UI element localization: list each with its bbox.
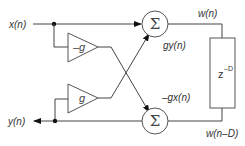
cross-wire-neg-g-to-bottom-sum [98,47,149,112]
delay-input-label: w(n) [198,8,217,19]
output-label: y(n) [7,116,25,127]
delay-output-label: w(n–D) [206,128,238,139]
output-junction-dot [53,119,57,123]
output-branch-wire [55,99,68,121]
top-feed-label: gy(n) [163,40,186,51]
delay-output-wire [168,108,222,121]
gain-top-label: –g [72,41,86,53]
input-branch-wire [54,24,68,47]
input-label: x(n) [8,19,26,30]
bottom-feed-label: –gx(n) [161,92,190,103]
delay-base-label: z [218,68,224,80]
cross-wire-g-to-top-sum [98,34,149,98]
gain-bottom-label: g [79,92,86,104]
sum-bottom-symbol: Σ [150,112,161,130]
allpass-filter-diagram: x(n) –g g Σ gy(n) w(n) z –D w(n–D) –gx(n… [0,0,245,146]
delay-exponent-label: –D [224,65,233,72]
sum-top-symbol: Σ [150,15,161,33]
delay-input-wire [168,24,222,38]
